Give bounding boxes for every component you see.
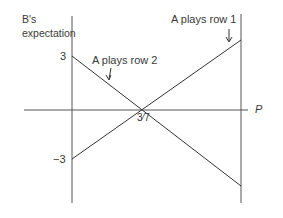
tick-label-minus-3: −3: [53, 154, 66, 165]
y-axis-label-line1: B's: [22, 12, 82, 26]
y-axis-label-line2: expectation: [22, 26, 82, 40]
tick-label-3: 3: [60, 51, 66, 62]
row2-line: [72, 56, 241, 186]
row2-arrow-icon: [106, 68, 111, 80]
row2-label: A plays row 2: [92, 55, 157, 66]
intersection-label: 3⁄7: [137, 113, 150, 123]
y-axis-label: B's expectation: [22, 12, 82, 40]
x-axis-label: P: [255, 104, 262, 115]
row1-arrow-icon: [226, 29, 232, 42]
row1-label: A plays row 1: [171, 14, 236, 25]
